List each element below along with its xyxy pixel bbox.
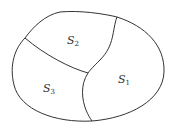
region-partition-diagram xyxy=(0,0,172,129)
region-label-s1: S1 xyxy=(118,74,130,87)
divider-s1-s3 xyxy=(83,73,93,121)
region-label-s3: S3 xyxy=(43,83,55,96)
outer-boundary xyxy=(12,11,164,121)
region-label-s2: S2 xyxy=(67,35,79,48)
diagram-canvas: S1 S2 S3 xyxy=(0,0,172,129)
divider-s1-s2 xyxy=(88,17,117,73)
